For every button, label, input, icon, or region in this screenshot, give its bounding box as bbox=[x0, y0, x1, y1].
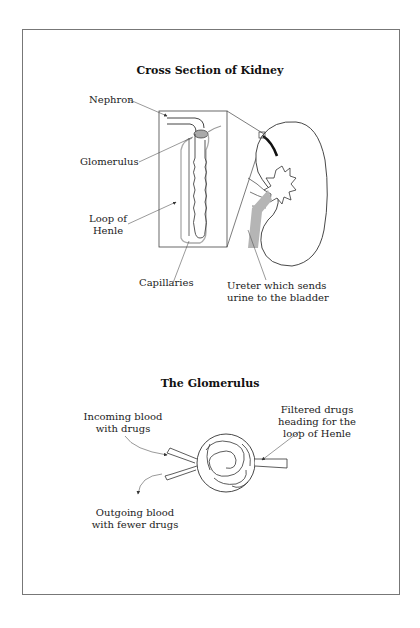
label-ureter: Ureter which sends urine to the bladder bbox=[227, 280, 329, 304]
glomerulus-title: The Glomerulus bbox=[110, 377, 310, 390]
label-loop-of-henle: Loop of Henle bbox=[83, 213, 133, 237]
kidney-shape bbox=[248, 122, 327, 266]
nephron-pointer bbox=[130, 100, 167, 116]
loop-pointer bbox=[128, 202, 176, 224]
label-filtered: Filtered drugs heading for the loop of H… bbox=[272, 404, 362, 440]
label-nephron: Nephron bbox=[89, 94, 134, 106]
nephron-inset bbox=[159, 111, 264, 247]
label-outgoing-line2: with fewer drugs bbox=[90, 519, 180, 531]
label-ureter-line2: urine to the bladder bbox=[227, 292, 329, 304]
label-outgoing-line1: Outgoing blood bbox=[90, 507, 180, 519]
label-loop-line1: Loop of bbox=[83, 213, 133, 225]
label-incoming: Incoming blood with drugs bbox=[78, 411, 168, 435]
label-capillaries: Capillaries bbox=[139, 277, 194, 289]
label-filtered-line1: Filtered drugs bbox=[272, 404, 362, 416]
kidney-title: Cross Section of Kidney bbox=[110, 64, 310, 77]
label-filtered-line2: heading for the bbox=[272, 416, 362, 428]
outgoing-pointer bbox=[138, 474, 162, 494]
label-loop-line2: Henle bbox=[83, 225, 133, 237]
diagram-artwork bbox=[0, 0, 420, 628]
label-incoming-line1: Incoming blood bbox=[78, 411, 168, 423]
label-outgoing: Outgoing blood with fewer drugs bbox=[90, 507, 180, 531]
label-glomerulus: Glomerulus bbox=[80, 156, 139, 168]
label-ureter-line1: Ureter which sends bbox=[227, 280, 329, 292]
label-incoming-line2: with drugs bbox=[78, 423, 168, 435]
label-filtered-line3: loop of Henle bbox=[272, 428, 362, 440]
incoming-pointer bbox=[125, 436, 167, 455]
glomerulus-pointer bbox=[139, 137, 193, 162]
glomerulus-illustration bbox=[165, 434, 287, 492]
